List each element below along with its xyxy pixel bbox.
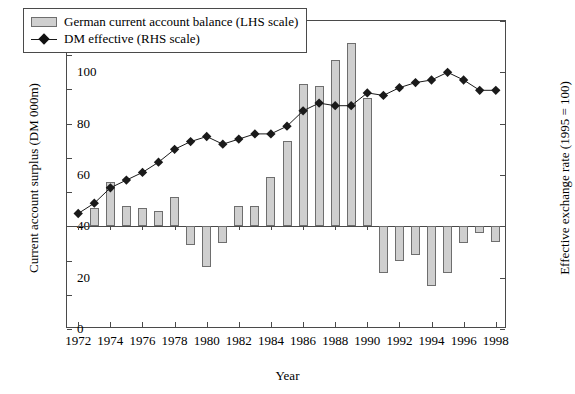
bar-swatch-icon — [31, 17, 57, 27]
x-axis-title: Year — [0, 368, 575, 384]
legend-item-line: DM effective (RHS scale) — [31, 30, 298, 47]
line-marker-diamond — [411, 78, 420, 87]
line-marker-diamond — [122, 175, 131, 184]
chart-legend: German current account balance (LHS scal… — [23, 8, 307, 53]
line-marker-diamond — [250, 129, 259, 138]
line-marker-diamond — [459, 75, 468, 84]
line-marker-diamond — [202, 132, 211, 141]
line-marker-diamond — [363, 88, 372, 97]
line-marker-diamond — [138, 168, 147, 177]
legend-label-line: DM effective (RHS scale) — [64, 31, 200, 47]
line-marker-diamond — [218, 140, 227, 149]
line-diamond-icon — [31, 34, 57, 44]
line-marker-diamond — [475, 86, 484, 95]
line-marker-diamond — [266, 129, 275, 138]
line-marker-diamond — [395, 83, 404, 92]
line-marker-diamond — [154, 158, 163, 167]
line-marker-diamond — [347, 101, 356, 110]
line-series — [67, 21, 507, 329]
chart-figure: Current account surplus (DM 000m) Effect… — [0, 0, 575, 394]
line-marker-diamond — [491, 86, 500, 95]
line-marker-diamond — [443, 68, 452, 77]
line-marker-diamond — [379, 91, 388, 100]
line-marker-diamond — [427, 75, 436, 84]
line-marker-diamond — [186, 137, 195, 146]
line-marker-diamond — [74, 209, 83, 218]
legend-item-bar: German current account balance (LHS scal… — [31, 13, 298, 30]
x-tick-label: 1998 — [474, 333, 518, 349]
y-tick-mark-left — [67, 329, 72, 330]
line-marker-diamond — [170, 145, 179, 154]
legend-label-bar: German current account balance (LHS scal… — [64, 14, 298, 30]
plot-area: –60–40–20020406080100120 020406080100120… — [66, 20, 506, 328]
line-marker-diamond — [234, 134, 243, 143]
line-path — [78, 72, 496, 213]
y-tick-mark-right — [500, 329, 505, 330]
y-axis-left-title: Current account surplus (DM 000m) — [26, 48, 42, 308]
y-axis-right-title: Effective exchange rate (1995 = 100) — [557, 38, 573, 318]
line-marker-diamond — [314, 98, 323, 107]
line-marker-diamond — [331, 101, 340, 110]
